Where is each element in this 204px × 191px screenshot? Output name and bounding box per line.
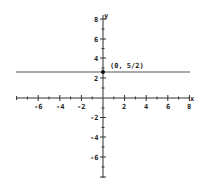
- svg-text:8: 8: [187, 103, 191, 111]
- point-label: (0, 5/2): [110, 62, 144, 70]
- svg-text:-6: -6: [34, 103, 42, 111]
- point-0-5-2: [101, 70, 105, 74]
- svg-text:6: 6: [166, 103, 170, 111]
- svg-text:-4: -4: [56, 103, 64, 111]
- y-tick-labels: 8 6 4 2 -2 -4 -6: [90, 16, 98, 162]
- y-axis-label: y: [104, 12, 109, 20]
- graph: (0, 5/2) y x -6 -4 -2 2 4 6 8 8 6 4 2 -2…: [0, 0, 204, 191]
- svg-text:-2: -2: [77, 103, 85, 111]
- svg-text:-6: -6: [90, 154, 98, 162]
- svg-text:-4: -4: [90, 134, 98, 142]
- svg-text:2: 2: [122, 103, 126, 111]
- svg-text:-2: -2: [90, 114, 98, 122]
- svg-text:2: 2: [94, 75, 98, 83]
- svg-text:6: 6: [94, 36, 98, 44]
- x-tick-labels: -6 -4 -2 2 4 6 8: [34, 103, 191, 111]
- svg-text:8: 8: [94, 16, 98, 24]
- svg-text:4: 4: [94, 55, 98, 63]
- svg-text:4: 4: [144, 103, 148, 111]
- x-axis-label: x: [190, 95, 195, 103]
